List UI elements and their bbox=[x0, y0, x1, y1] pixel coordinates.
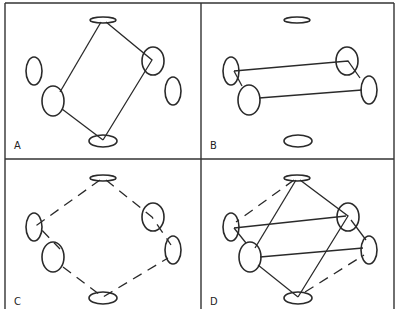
link bbox=[62, 109, 103, 140]
bottom-disc bbox=[284, 135, 312, 147]
panel-label-b: B bbox=[210, 140, 217, 151]
link bbox=[260, 248, 363, 257]
panel-c bbox=[26, 175, 181, 304]
lower-left-ellipse bbox=[239, 242, 261, 272]
link bbox=[60, 22, 101, 92]
panel-a-elements bbox=[26, 17, 181, 147]
link bbox=[234, 228, 246, 243]
far-right-ellipse bbox=[165, 77, 181, 105]
link bbox=[103, 22, 152, 140]
link bbox=[234, 216, 346, 228]
bottom-disc bbox=[284, 292, 312, 304]
link bbox=[234, 61, 360, 78]
far-left-ellipse bbox=[26, 57, 42, 85]
top-disc bbox=[284, 175, 310, 181]
top-disc bbox=[90, 17, 116, 23]
top-disc bbox=[284, 17, 310, 23]
panel-d bbox=[223, 175, 377, 304]
four-panel-diagram: A B C D bbox=[0, 0, 396, 309]
lower-left-ellipse bbox=[238, 85, 260, 115]
far-right-ellipse bbox=[361, 236, 377, 264]
far-left-ellipse bbox=[26, 213, 42, 241]
link bbox=[255, 180, 296, 248]
upper-right-ellipse bbox=[142, 203, 164, 231]
bottom-disc bbox=[89, 292, 117, 304]
panel-label-a: A bbox=[14, 140, 21, 151]
diagram-canvas bbox=[0, 0, 396, 309]
far-left-ellipse bbox=[223, 213, 239, 241]
link bbox=[298, 180, 348, 297]
panel-b bbox=[223, 17, 377, 147]
link bbox=[259, 90, 362, 98]
panel-label-c: C bbox=[14, 296, 21, 307]
dashed-ring bbox=[236, 180, 364, 292]
top-disc bbox=[90, 175, 116, 181]
panel-label-d: D bbox=[210, 296, 218, 307]
link bbox=[258, 265, 298, 297]
far-right-ellipse bbox=[361, 76, 377, 104]
bottom-disc bbox=[89, 135, 117, 147]
lower-left-ellipse bbox=[42, 242, 64, 272]
dashed-ring bbox=[37, 180, 171, 297]
panel-a bbox=[26, 17, 181, 147]
